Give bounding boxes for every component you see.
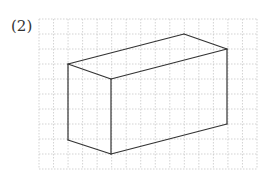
prism-edge-CD <box>111 49 227 79</box>
prism-edge-DA <box>68 64 111 79</box>
prism-edge-BC <box>184 34 227 49</box>
isometric-grid-diagram <box>0 0 269 179</box>
prism-edge-FG <box>111 124 227 154</box>
dotted-grid <box>39 19 257 169</box>
prism-edge-EF <box>68 140 111 154</box>
